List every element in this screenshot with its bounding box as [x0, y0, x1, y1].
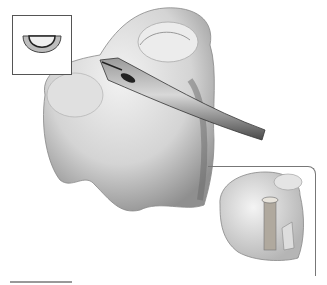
inset-plateau-detail — [208, 166, 316, 276]
scale-bar — [10, 281, 72, 283]
inset-instrument-cross-section — [12, 15, 72, 75]
half-pipe-icon — [13, 16, 71, 74]
medical-illustration — [0, 0, 327, 285]
